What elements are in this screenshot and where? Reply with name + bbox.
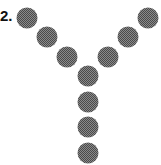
dot [78, 66, 99, 87]
dot [78, 92, 99, 113]
dot [57, 47, 78, 68]
dot [138, 8, 159, 29]
y-shape-dot-figure [0, 0, 161, 165]
dots-group [17, 8, 159, 164]
dot [98, 47, 119, 68]
dot [78, 117, 99, 138]
dot [118, 27, 139, 48]
dot [78, 143, 99, 164]
dot [17, 8, 38, 29]
dot [37, 27, 58, 48]
